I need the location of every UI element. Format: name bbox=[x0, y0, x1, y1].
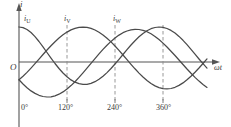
x-tick-label-240: 240° bbox=[107, 104, 122, 112]
curve-label-iv-subscript: V bbox=[66, 18, 70, 24]
curve-label-iv: iV bbox=[64, 15, 71, 23]
y-axis-label: i bbox=[20, 0, 23, 9]
curve-iu bbox=[19, 27, 207, 84]
x-axis-label: ωt bbox=[214, 64, 222, 72]
curve-label-iu-subscript: U bbox=[26, 18, 30, 24]
curve-label-iu: iU bbox=[24, 15, 31, 23]
x-tick-label-360: 360° bbox=[156, 104, 171, 112]
x-axis bbox=[19, 59, 220, 65]
curve-iw bbox=[19, 29, 207, 97]
x-tick-label-0: 0° bbox=[21, 104, 28, 112]
waveform-figure: i ωt O iU iV iW 0° 120° 240° 360° bbox=[0, 0, 231, 127]
origin-label: O bbox=[10, 63, 17, 72]
curve-label-iw: iW bbox=[113, 15, 121, 23]
x-tick-label-120: 120° bbox=[58, 104, 73, 112]
curve-label-iw-subscript: W bbox=[115, 18, 121, 24]
